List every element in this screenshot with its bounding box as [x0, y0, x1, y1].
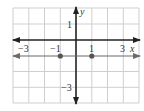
graph-svg: y x −3 −1 1 3 1 −3: [0, 0, 144, 111]
x-tick-minus1: −1: [50, 43, 61, 54]
point-1-minus1: [89, 53, 94, 58]
x-tick-3: 3: [120, 43, 125, 54]
coordinate-graph: y x −3 −1 1 3 1 −3: [0, 0, 144, 111]
y-axis-label: y: [79, 6, 85, 17]
x-tick-minus3: −3: [18, 43, 29, 54]
point-minus1-minus1: [58, 53, 63, 58]
y-tick-1: 1: [67, 19, 72, 30]
x-axis-label: x: [129, 43, 135, 54]
x-tick-1: 1: [89, 43, 94, 54]
y-tick-minus3: −3: [61, 82, 72, 93]
